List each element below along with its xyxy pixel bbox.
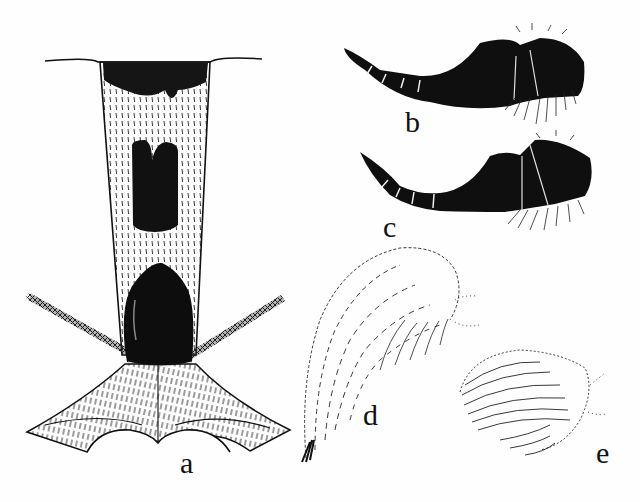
illustration-svg — [0, 0, 640, 502]
panel-label-a: a — [180, 448, 193, 478]
figure-a — [27, 58, 290, 452]
panel-label-d: d — [363, 400, 378, 430]
figure-plate: a b c d e — [0, 0, 640, 502]
figure-d — [302, 248, 479, 462]
figure-b — [344, 23, 584, 124]
panel-label-e: e — [596, 438, 609, 468]
figure-e — [460, 350, 606, 455]
panel-label-c: c — [383, 212, 396, 242]
panel-label-b: b — [405, 107, 420, 137]
